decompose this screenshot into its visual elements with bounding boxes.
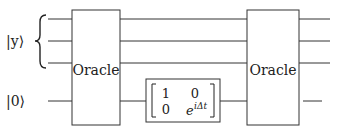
matrix-cell-11-base: e [186, 103, 194, 118]
matrix-cell-00: 1 [162, 86, 170, 101]
matrix-cell-10: 0 [162, 102, 170, 117]
matrix-cell-11-exponent: iΔt [194, 101, 207, 111]
phase-gate-box [146, 79, 220, 122]
register-brace-icon [35, 15, 46, 68]
quantum-circuit: |y⟩ |0⟩ Oracle 1 0 0 e iΔt Oracle [0, 0, 345, 131]
register-label: |y⟩ [6, 33, 24, 50]
matrix-cell-01: 0 [191, 86, 199, 101]
ancilla-label: |0⟩ [6, 93, 25, 110]
oracle-1-label: Oracle [72, 62, 119, 78]
oracle-2-label: Oracle [249, 62, 296, 78]
